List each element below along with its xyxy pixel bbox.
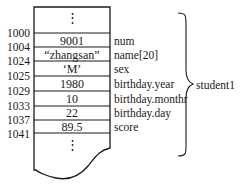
cell-name: “zhangsan” <box>34 48 110 62</box>
cell-score: 89.5 <box>34 120 110 134</box>
cell-year: 1980 <box>34 77 110 91</box>
cell-num: 9001 <box>34 34 110 48</box>
curly-brace-icon <box>178 13 193 156</box>
address-1024: 1024 <box>0 55 30 67</box>
address-1033: 1033 <box>0 100 30 112</box>
address-1025: 1025 <box>0 70 30 82</box>
field-num: num <box>114 35 134 47</box>
address-1041: 1041 <box>0 128 30 140</box>
address-1029: 1029 <box>0 85 30 97</box>
field-name: name[20] <box>114 49 158 61</box>
address-1037: 1037 <box>0 114 30 126</box>
top-ellipsis: ⋮ <box>34 11 110 25</box>
cell-sex: ‘M’ <box>34 62 110 76</box>
address-1004: 1004 <box>0 41 30 53</box>
cell-month: 10 <box>34 92 110 106</box>
group-label: student1 <box>196 79 235 91</box>
field-birthday-month: birthday.monthr <box>114 93 188 105</box>
field-sex: sex <box>114 63 129 75</box>
bottom-ellipsis: ⋮ <box>34 138 110 152</box>
field-birthday-year: birthday.year <box>114 78 174 90</box>
field-birthday-day: birthday.day <box>114 107 171 119</box>
field-score: score <box>114 121 138 133</box>
address-1000: 1000 <box>0 27 30 39</box>
cell-day: 22 <box>34 106 110 120</box>
